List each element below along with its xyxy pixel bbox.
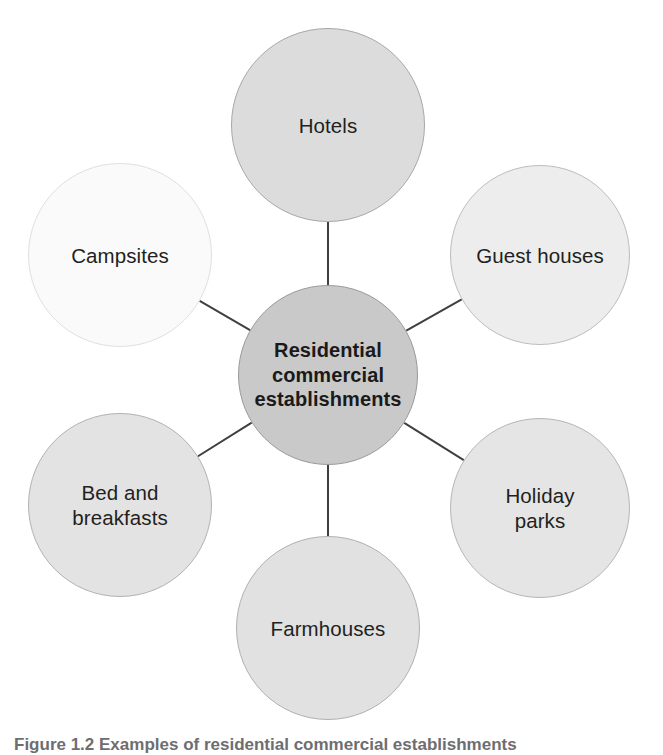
node-farmhouses: Farmhouses	[236, 536, 420, 720]
node-holiday-parks-label: Holiday parks	[505, 483, 574, 533]
node-campsites: Campsites	[28, 163, 212, 347]
node-holiday-parks: Holiday parks	[450, 418, 630, 598]
node-bed-and-breakfasts: Bed and breakfasts	[28, 413, 212, 597]
figure-caption: Figure 1.2 Examples of residential comme…	[14, 735, 654, 755]
node-bed-and-breakfasts-label: Bed and breakfasts	[72, 480, 168, 530]
node-hotels: Hotels	[231, 28, 425, 222]
node-guest-houses: Guest houses	[450, 165, 630, 345]
spoke-bed-and-breakfasts	[198, 423, 252, 457]
spoke-campsites	[200, 301, 250, 330]
node-campsites-label: Campsites	[71, 243, 169, 268]
spoke-holiday-parks	[404, 423, 464, 460]
spoke-guest-houses	[406, 299, 461, 330]
center-node: Residential commercial establishments	[238, 285, 418, 465]
center-node-label: Residential commercial establishments	[255, 338, 402, 411]
node-farmhouses-label: Farmhouses	[271, 616, 386, 641]
node-guest-houses-label: Guest houses	[476, 243, 604, 268]
node-hotels-label: Hotels	[299, 113, 358, 138]
